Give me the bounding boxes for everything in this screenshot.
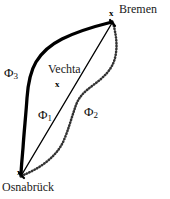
- city-label-bremen: Bremen: [119, 3, 157, 15]
- route-diagram: Bremen x Osnabrück x Vechta x Φ3 Φ1 Φ2: [0, 0, 170, 199]
- path-label-phi3-symbol: Φ: [4, 65, 14, 80]
- path-label-phi2: Φ2: [84, 105, 98, 120]
- city-label-osnabruck: Osnabrück: [2, 181, 54, 193]
- city-marker-bremen: x: [109, 9, 114, 18]
- path-label-phi3: Φ3: [4, 66, 18, 81]
- city-label-vechta: Vechta: [48, 63, 81, 75]
- path-phi1-straight-line: [21, 23, 112, 176]
- path-label-phi3-subscript: 3: [14, 71, 19, 81]
- path-label-phi2-subscript: 2: [94, 110, 99, 120]
- path-label-phi1-subscript: 1: [48, 113, 53, 123]
- path-label-phi2-symbol: Φ: [84, 104, 94, 119]
- path-label-phi1: Φ1: [38, 108, 52, 123]
- city-marker-vechta: x: [55, 80, 60, 89]
- path-label-phi1-symbol: Φ: [38, 107, 48, 122]
- city-marker-osnabruck: x: [17, 168, 22, 177]
- diagram-canvas: [0, 0, 170, 199]
